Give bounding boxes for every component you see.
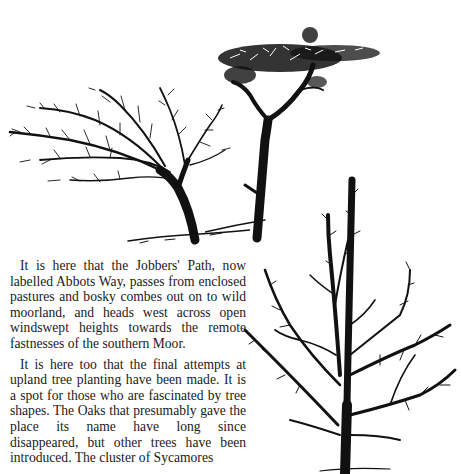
paragraph-2: It is here too that the final attempts a…: [10, 357, 246, 466]
book-page: It is here that the Jobbers' Path, now l…: [0, 0, 461, 474]
paragraph-1: It is here that the Jobbers' Path, now l…: [10, 258, 246, 352]
bare-upright-tree-illustration: [240, 175, 461, 474]
body-text: It is here that the Jobbers' Path, now l…: [10, 258, 246, 471]
